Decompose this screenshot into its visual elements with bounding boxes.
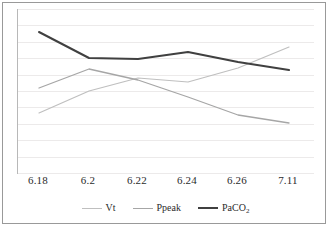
legend-swatch-icon xyxy=(198,207,218,209)
legend-entry-paco2[interactable]: PaCO2 xyxy=(198,203,249,213)
legend-entry-vt[interactable]: Vt xyxy=(82,203,116,213)
x-tick-label: 6.2 xyxy=(81,174,95,186)
x-tick-label: 6.24 xyxy=(177,174,197,186)
series-line-vt xyxy=(39,47,289,113)
x-tick-label: 6.22 xyxy=(127,174,147,186)
legend-label: PaCO2 xyxy=(222,203,249,213)
x-axis-tick-labels: 6.186.26.226.246.267.11 xyxy=(17,174,314,194)
x-tick-label: 6.26 xyxy=(227,174,247,186)
legend-label: Ppeak xyxy=(157,203,181,213)
series-line-paco2 xyxy=(39,32,289,70)
legend-label: Vt xyxy=(106,203,116,213)
x-tick-label: 6.18 xyxy=(28,174,48,186)
chart-figure: 6.186.26.226.246.267.11 VtPpeakPaCO2 xyxy=(0,0,329,227)
legend-entry-ppeak[interactable]: Ppeak xyxy=(133,203,181,213)
legend-swatch-icon xyxy=(133,208,153,209)
chart-legend: VtPpeakPaCO2 xyxy=(17,200,314,216)
legend-swatch-icon xyxy=(82,208,102,209)
plot-area xyxy=(17,9,314,174)
series-layer xyxy=(18,9,315,174)
x-tick-label: 7.11 xyxy=(278,174,298,186)
